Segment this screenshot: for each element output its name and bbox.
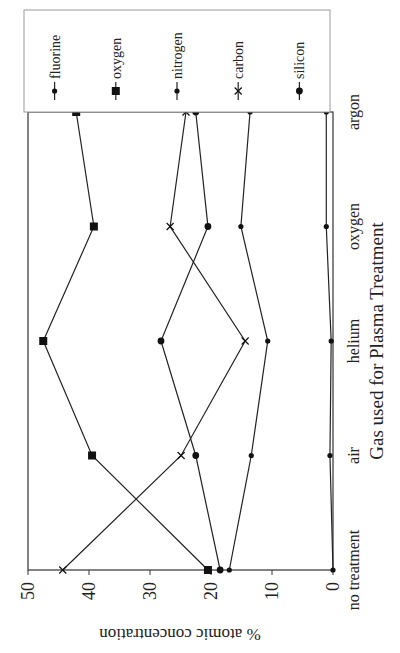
y-axis-ticks: 01020304050 bbox=[18, 570, 343, 600]
legend: fluorineoxygennitrogencarbonsilicon bbox=[24, 10, 330, 112]
x-axis-ticks: no treatmentairheliumoxygenargon bbox=[345, 94, 363, 610]
series-silicon bbox=[158, 109, 224, 574]
x-tick-label: air bbox=[345, 446, 362, 464]
y-tick-label: 40 bbox=[79, 582, 99, 600]
x-axis-title: Gas used for Plasma Treatment bbox=[366, 222, 387, 460]
y-tick-label: 20 bbox=[201, 582, 221, 600]
series-oxygen bbox=[39, 108, 212, 574]
x-tick-label: helium bbox=[345, 318, 362, 363]
series-carbon bbox=[59, 109, 248, 574]
legend-label: nitrogen bbox=[170, 32, 185, 79]
series-layer bbox=[39, 108, 335, 574]
series-fluorine bbox=[324, 109, 336, 572]
y-axis-title: % atomic concentration bbox=[99, 625, 261, 644]
legend-label: fluorine bbox=[48, 35, 63, 79]
series-nitrogen bbox=[227, 109, 271, 572]
plot-area bbox=[28, 112, 333, 570]
legend-label: carbon bbox=[231, 41, 246, 79]
legend-label: oxygen bbox=[109, 38, 124, 79]
y-tick-label: 50 bbox=[18, 582, 38, 600]
x-tick-label: oxygen bbox=[345, 203, 363, 250]
line-chart: 01020304050 no treatmentairheliumoxygena… bbox=[0, 0, 400, 653]
y-tick-label: 10 bbox=[262, 582, 282, 600]
x-tick-label: argon bbox=[345, 94, 363, 130]
y-tick-label: 0 bbox=[323, 582, 343, 591]
chart-figure: 01020304050 no treatmentairheliumoxygena… bbox=[0, 0, 400, 653]
legend-label: silicon bbox=[292, 42, 307, 79]
x-tick-label: no treatment bbox=[345, 529, 362, 610]
y-tick-label: 30 bbox=[140, 582, 160, 600]
